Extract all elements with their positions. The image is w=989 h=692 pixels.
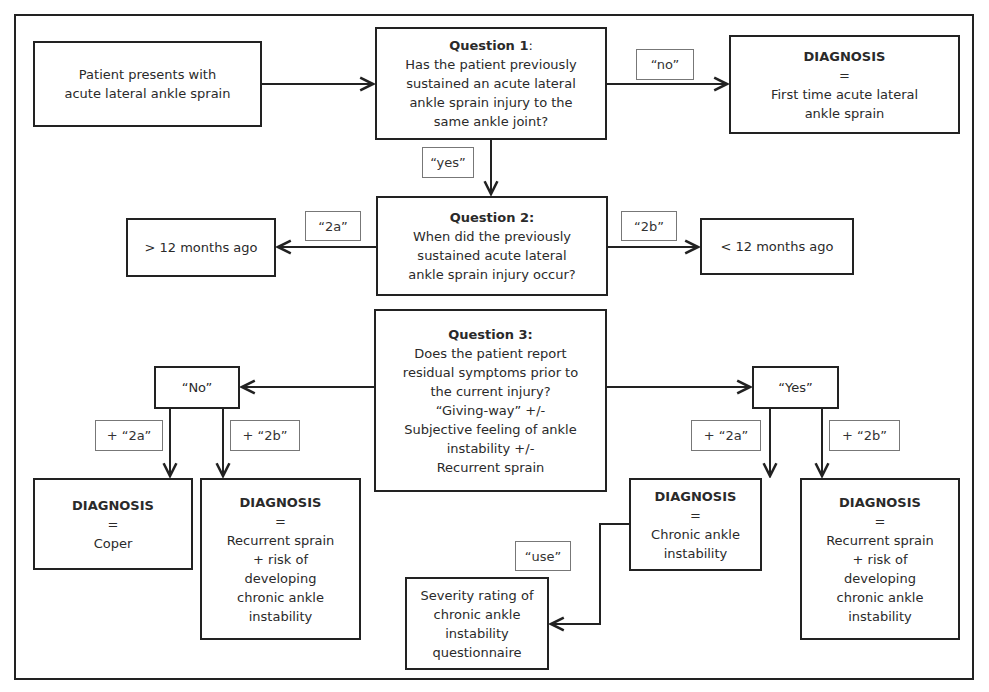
diagnosis-line: First time acute lateral <box>771 85 918 104</box>
diagnosis-coper-box: DIAGNOSIS = Coper <box>33 478 193 570</box>
question-3-title: Question 3: <box>448 325 533 344</box>
question-3-line: Subjective feeling of ankle <box>404 420 576 439</box>
severity-line: Severity rating of <box>421 586 534 605</box>
diagnosis-line: developing <box>245 569 317 588</box>
edge-label-plus-2a-right: + “2a” <box>691 420 761 451</box>
equals-sign: = <box>690 506 701 525</box>
diagnosis-line: Recurrent sprain <box>826 531 934 550</box>
equals-sign: = <box>275 512 286 531</box>
edge-label-2b: “2b” <box>621 211 677 241</box>
edge-label-2a: “2a” <box>305 211 361 241</box>
question-3-line: “Giving-way” +/- <box>436 401 546 420</box>
diagnosis-title: DIAGNOSIS <box>240 493 322 512</box>
question-3-line: Recurrent sprain <box>437 458 545 477</box>
edge-label-yes: “yes” <box>422 147 474 178</box>
severity-line: instability <box>445 624 509 643</box>
diagnosis-recurrent-right-box: DIAGNOSIS = Recurrent sprain + risk of d… <box>800 478 960 640</box>
question-3-box: Question 3: Does the patient report resi… <box>374 309 607 492</box>
question-1-line: same ankle joint? <box>434 112 548 131</box>
diagnosis-title: DIAGNOSIS <box>72 496 154 515</box>
diagnosis-line: Coper <box>94 534 133 553</box>
less-than-12-months-box: < 12 months ago <box>700 218 854 275</box>
diagnosis-line: instability <box>664 544 728 563</box>
edge-label-plus-2b-right: + “2b” <box>829 420 900 451</box>
severity-rating-questionnaire-box: Severity rating of chronic ankle instabi… <box>405 577 549 670</box>
question-3-line: instability +/- <box>447 439 535 458</box>
start-text-line: acute lateral ankle sprain <box>65 84 231 103</box>
answer-yes-box: “Yes” <box>752 366 839 409</box>
severity-line: chronic ankle <box>434 605 521 624</box>
diagnosis-line: developing <box>844 569 916 588</box>
diagnosis-title: DIAGNOSIS <box>655 487 737 506</box>
less-than-12-months-text: < 12 months ago <box>721 237 834 256</box>
start-text-line: Patient presents with <box>79 65 216 84</box>
diagnosis-line: chronic ankle <box>837 588 924 607</box>
diagnosis-line: Recurrent sprain <box>227 531 335 550</box>
diagnosis-line: instability <box>848 607 912 626</box>
question-2-box: Question 2: When did the previously sust… <box>376 196 608 296</box>
diagnosis-title: DIAGNOSIS <box>804 47 886 66</box>
more-than-12-months-text: > 12 months ago <box>145 238 258 257</box>
question-1-box: Question 1: Has the patient previously s… <box>375 27 607 140</box>
question-3-line: the current injury? <box>430 382 550 401</box>
diagnosis-line: + risk of <box>253 550 308 569</box>
edge-label-plus-2a-left: + “2a” <box>95 420 163 451</box>
equals-sign: = <box>875 512 886 531</box>
equals-sign: = <box>108 515 119 534</box>
diagnosis-title: DIAGNOSIS <box>839 493 921 512</box>
diagnosis-line: instability <box>249 607 313 626</box>
question-1-title: Question 1 <box>449 38 528 53</box>
question-1-line: Has the patient previously <box>405 55 576 74</box>
question-1-line: sustained an acute lateral <box>406 74 576 93</box>
answer-no-box: “No” <box>154 366 240 409</box>
question-3-line: Does the patient report <box>414 344 566 363</box>
edge-label-use: “use” <box>515 541 571 571</box>
question-2-line: When did the previously <box>413 227 571 246</box>
question-2-title: Question 2: <box>450 208 535 227</box>
diagnosis-line: Chronic ankle <box>651 525 740 544</box>
question-2-line: sustained acute lateral <box>417 246 566 265</box>
question-1-line: ankle sprain injury to the <box>409 93 572 112</box>
answer-yes-text: “Yes” <box>778 378 812 397</box>
start-box-patient-presents: Patient presents with acute lateral ankl… <box>33 41 262 127</box>
question-3-line: residual symptoms prior to <box>403 363 578 382</box>
diagnosis-line: ankle sprain <box>805 104 885 123</box>
diagnosis-chronic-ankle-instability-box: DIAGNOSIS = Chronic ankle instability <box>629 478 762 571</box>
diagnosis-line: + risk of <box>853 550 908 569</box>
question-1-colon: : <box>528 38 532 53</box>
diagnosis-first-time-box: DIAGNOSIS = First time acute lateral ank… <box>729 35 960 134</box>
edge-label-plus-2b-left: + “2b” <box>230 420 300 451</box>
more-than-12-months-box: > 12 months ago <box>126 218 276 277</box>
diagnosis-line: chronic ankle <box>237 588 324 607</box>
edge-label-no: “no” <box>636 49 694 80</box>
equals-sign: = <box>839 66 850 85</box>
severity-line: questionnaire <box>432 643 521 662</box>
diagnosis-recurrent-left-box: DIAGNOSIS = Recurrent sprain + risk of d… <box>200 478 361 640</box>
question-2-line: ankle sprain injury occur? <box>408 265 575 284</box>
answer-no-text: “No” <box>182 378 213 397</box>
